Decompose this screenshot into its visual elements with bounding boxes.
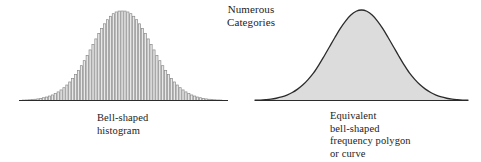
histogram-bar [51,95,53,101]
histogram-bar [98,34,100,101]
bell-shaped-curve-chart [245,0,481,108]
histogram-bar [191,95,193,101]
histogram-bar [75,75,77,101]
curve-caption-line-2: bell-shaped [330,123,411,136]
histogram-bar [130,14,132,101]
histogram-bar [162,66,164,101]
histogram-bar [138,24,140,101]
histogram-bar [179,88,181,101]
histogram-bar [135,20,137,101]
figure-root: Numerous Categories Bell-shaped histogra… [0,0,481,162]
histogram-bar [176,85,178,100]
histogram-bar [112,14,114,101]
histogram-caption-line-1: Bell-shaped [97,112,148,125]
histogram-bar [147,39,149,101]
histogram-bar [121,11,123,101]
histogram-bar [77,70,79,100]
histogram-bar [182,90,184,101]
curve-filled-area [255,10,468,101]
histogram-bar [185,92,187,101]
curve-caption-line-1: Equivalent [330,110,411,123]
curve-caption: Equivalent bell-shaped frequency polygon… [330,110,411,160]
histogram-bar [101,28,103,100]
histogram-bar [133,16,135,100]
histogram-bar [188,94,190,101]
histogram-bar [159,61,161,101]
histogram-bar [92,44,94,100]
histogram-bar [194,96,196,100]
histogram-bar [95,39,97,101]
histogram-bar [173,82,175,101]
histogram-bar [104,24,106,101]
histogram-caption-line-2: histogram [97,125,148,138]
histogram-bar [48,96,50,100]
histogram-bar [153,50,155,101]
curve-svg [245,0,481,108]
histogram-bar [118,11,120,100]
histogram-bar [69,82,71,101]
histogram-bar [57,92,59,101]
bell-shaped-histogram-chart [0,0,245,108]
histogram-bar [106,20,108,101]
histogram-bar [170,78,172,100]
histogram-caption: Bell-shaped histogram [97,112,148,137]
histogram-bar [164,70,166,100]
histogram-bar [54,94,56,101]
histogram-bar [66,85,68,100]
curve-caption-line-3: frequency polygon [330,135,411,148]
histogram-bar [80,66,82,101]
histogram-bar [150,44,152,100]
histogram-bar [86,55,88,100]
histogram-bar [124,11,126,100]
histogram-bar [72,78,74,100]
histogram-bar [60,90,62,101]
histogram-bar [83,61,85,101]
histogram-bar [141,28,143,100]
histogram-bar [156,55,158,100]
histogram-bar [167,75,169,101]
histogram-bar [63,88,65,101]
curve-caption-line-4: or curve [330,148,411,161]
histogram-svg [0,0,245,108]
histogram-bars [22,11,222,101]
histogram-bar [115,12,117,101]
histogram-bar [144,34,146,101]
histogram-bar [127,12,129,101]
histogram-bar [109,16,111,100]
histogram-bar [89,50,91,101]
